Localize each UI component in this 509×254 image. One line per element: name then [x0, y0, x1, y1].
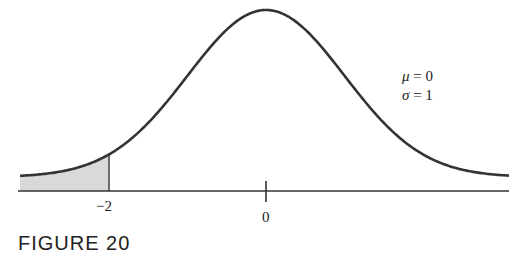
tick-label-neg2: −2 [96, 199, 112, 214]
tick-label-0: 0 [262, 210, 270, 225]
sigma-annotation: σ = 1 [402, 88, 433, 103]
sigma-value: = 1 [409, 87, 432, 103]
bell-curve [20, 10, 509, 176]
mu-value: = 0 [410, 68, 433, 84]
figure-caption: FIGURE 20 [18, 232, 130, 254]
mu-symbol: μ [402, 68, 410, 84]
mu-annotation: μ = 0 [402, 69, 433, 84]
